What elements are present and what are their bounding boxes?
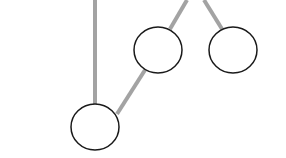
node-a: [71, 104, 119, 150]
edge-top-to-b: [170, 0, 187, 29]
nodes-group: [71, 27, 257, 150]
node-b: [134, 27, 182, 73]
edge-top-to-c: [204, 0, 222, 29]
node-c: [209, 27, 257, 73]
tree-diagram: [0, 0, 286, 158]
edge-a-to-b: [117, 70, 145, 114]
